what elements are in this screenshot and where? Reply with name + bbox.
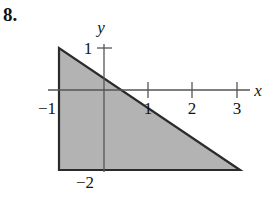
y-axis-label: y xyxy=(95,18,105,37)
figure-page: 8. y x 1 1 2 3 −1 −2 xyxy=(0,0,278,198)
x-tick-label-1: 1 xyxy=(144,99,153,118)
x-axis-label: x xyxy=(253,81,262,100)
x-tick-label-2: 2 xyxy=(188,99,197,118)
x-tick-label-minus-1: −1 xyxy=(38,99,56,118)
x-tick-label-3: 3 xyxy=(233,99,242,118)
coordinate-plane-figure: y x 1 1 2 3 −1 −2 xyxy=(0,0,278,198)
y-tick-label-minus-2: −2 xyxy=(76,173,94,192)
y-tick-label-1: 1 xyxy=(84,39,93,58)
